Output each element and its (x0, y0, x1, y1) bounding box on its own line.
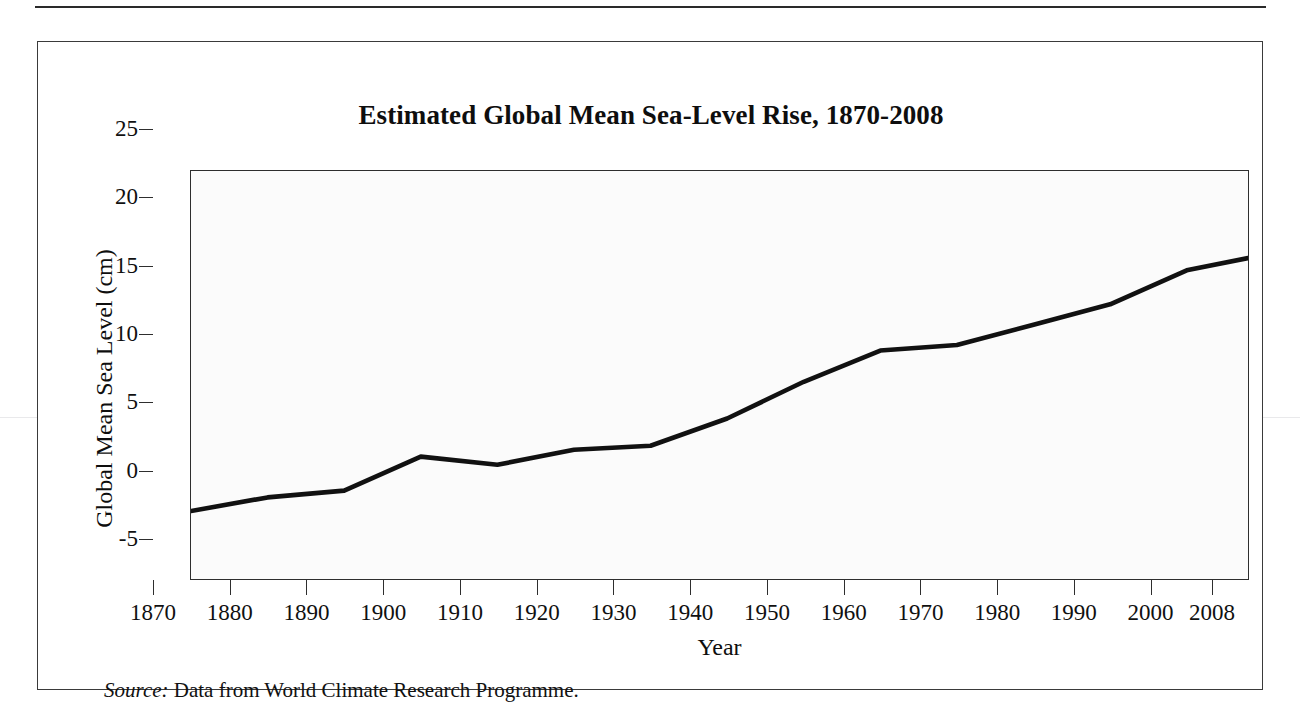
chart-title: Estimated Global Mean Sea-Level Rise, 18… (38, 100, 1264, 131)
x-tick-mark (460, 580, 461, 595)
x-tick-mark (920, 580, 921, 595)
x-tick-mark (767, 580, 768, 595)
x-tick-mark (230, 580, 231, 595)
x-tick-mark (997, 580, 998, 595)
x-tick-mark (690, 580, 691, 595)
sea-level-data-line (191, 258, 1248, 511)
y-tick-mark (139, 471, 153, 472)
y-tick-mark (139, 266, 153, 267)
sea-level-line-chart (191, 171, 1248, 579)
y-tick-mark (139, 334, 153, 335)
x-tick-mark (383, 580, 384, 595)
y-tick-label: 5 (94, 390, 138, 413)
x-tick-mark (613, 580, 614, 595)
x-tick-label: 2008 (1166, 600, 1258, 626)
y-tick-label: 15 (94, 254, 138, 277)
y-tick-mark (139, 129, 153, 130)
x-axis-title: Year (190, 634, 1249, 661)
figure-container: Estimated Global Mean Sea-Level Rise, 18… (37, 41, 1263, 690)
y-tick-label: 25 (94, 117, 138, 140)
x-tick-mark (1074, 580, 1075, 595)
plot-area (190, 170, 1249, 580)
y-tick-mark (139, 197, 153, 198)
y-tick-mark (139, 402, 153, 403)
x-tick-mark (537, 580, 538, 595)
y-tick-label: 0 (94, 459, 138, 482)
x-tick-mark (1151, 580, 1152, 595)
x-tick-mark (153, 580, 154, 595)
y-tick-label: 20 (94, 185, 138, 208)
x-tick-mark (1212, 580, 1213, 595)
x-tick-mark (306, 580, 307, 595)
source-note: Source: Data from World Climate Research… (104, 678, 579, 703)
page-top-rule (35, 6, 1266, 8)
source-label: Source: (104, 678, 169, 702)
y-tick-label: -5 (94, 527, 138, 550)
x-tick-mark (844, 580, 845, 595)
y-tick-mark (139, 539, 153, 540)
source-text: Data from World Climate Research Program… (169, 678, 579, 702)
y-tick-label: 10 (94, 322, 138, 345)
